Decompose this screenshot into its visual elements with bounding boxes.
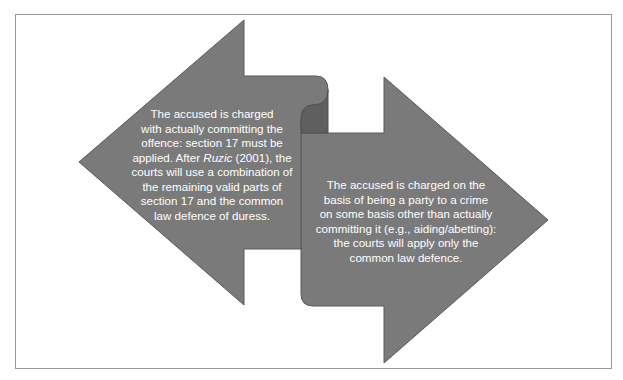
left-arrow-text: The accused is charged with actually com… — [120, 107, 304, 223]
case-name-ruzic: Ruzic — [203, 151, 232, 164]
right-arrow-text: The accused is charged on the basis of b… — [301, 178, 511, 265]
